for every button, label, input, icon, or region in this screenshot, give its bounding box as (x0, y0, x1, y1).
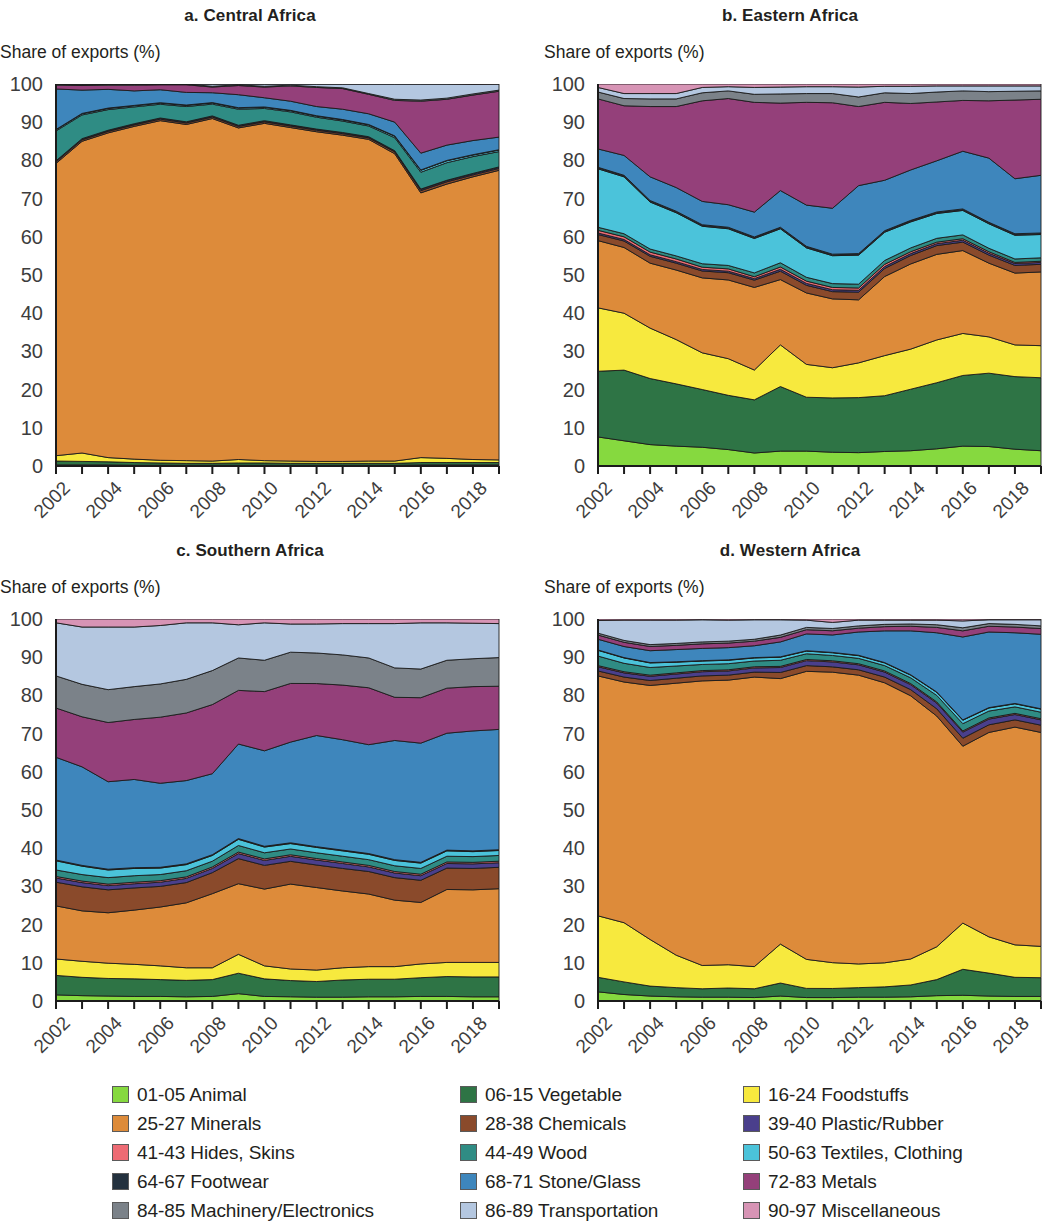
legend-item: 44-49 Wood (460, 1142, 743, 1164)
y-axis-title-c: Share of exports (%) (0, 577, 160, 598)
y-tick-label: 0 (0, 456, 43, 476)
x-tick-label: 2002 (565, 478, 615, 528)
y-axis-title-d: Share of exports (%) (544, 577, 704, 598)
legend-label: 64-67 Footwear (137, 1171, 269, 1193)
legend-item: 06-15 Vegetable (460, 1084, 743, 1106)
legend-swatch-icon (112, 1144, 129, 1161)
legend-label: 90-97 Miscellaneous (768, 1200, 940, 1222)
panel-title-d: d. Western Africa (540, 541, 1040, 561)
y-tick-label: 80 (537, 150, 585, 170)
legend-label: 44-49 Wood (485, 1142, 587, 1164)
y-tick-label: 70 (537, 724, 585, 744)
legend-swatch-icon (743, 1202, 760, 1219)
y-tick-label: 90 (537, 112, 585, 132)
y-tick-label: 40 (0, 838, 43, 858)
plot-area-southern-africa: 1009080706050403020100200220042006200820… (55, 619, 500, 1031)
legend-swatch-icon (743, 1115, 760, 1132)
legend-item: 68-71 Stone/Glass (460, 1171, 743, 1193)
y-tick-label: 30 (0, 341, 43, 361)
y-tick-label: 10 (0, 953, 43, 973)
stacked-area-svg (597, 619, 1042, 1031)
x-tick-label: 2002 (565, 1013, 615, 1063)
plot-area-western-africa: 1009080706050403020100200220042006200820… (597, 619, 1042, 1031)
y-tick-label: 50 (0, 265, 43, 285)
legend-label: 01-05 Animal (137, 1084, 247, 1106)
legend-item: 72-83 Metals (743, 1171, 1042, 1193)
y-tick-label: 90 (537, 647, 585, 667)
panel-southern-africa: c. Southern Africa Share of exports (%) … (0, 541, 530, 1061)
y-tick-label: 10 (0, 418, 43, 438)
legend-item: 01-05 Animal (112, 1084, 460, 1106)
legend-swatch-icon (743, 1086, 760, 1103)
y-tick-label: 50 (537, 265, 585, 285)
legend-swatch-icon (460, 1173, 477, 1190)
y-tick-label: 30 (537, 341, 585, 361)
panel-title-c: c. Southern Africa (0, 541, 530, 561)
legend-swatch-icon (460, 1115, 477, 1132)
y-tick-label: 50 (0, 800, 43, 820)
legend-label: 72-83 Metals (768, 1171, 877, 1193)
y-tick-label: 80 (0, 685, 43, 705)
legend-label: 68-71 Stone/Glass (485, 1171, 641, 1193)
legend-label: 84-85 Machinery/Electronics (137, 1200, 374, 1222)
legend-swatch-icon (112, 1202, 129, 1219)
panel-title-b: b. Eastern Africa (540, 6, 1040, 26)
y-tick-label: 0 (537, 991, 585, 1011)
legend-label: 16-24 Foodstuffs (768, 1084, 909, 1106)
y-tick-label: 60 (537, 762, 585, 782)
legend-label: 06-15 Vegetable (485, 1084, 622, 1106)
y-tick-label: 50 (537, 800, 585, 820)
legend-swatch-icon (743, 1144, 760, 1161)
legend-swatch-icon (112, 1086, 129, 1103)
legend-swatch-icon (112, 1115, 129, 1132)
y-tick-label: 60 (0, 762, 43, 782)
panel-western-africa: d. Western Africa Share of exports (%) 1… (540, 541, 1059, 1061)
y-tick-label: 40 (0, 303, 43, 323)
legend-swatch-icon (460, 1086, 477, 1103)
y-tick-label: 20 (0, 380, 43, 400)
legend-swatch-icon (460, 1202, 477, 1219)
legend-item: 84-85 Machinery/Electronics (112, 1200, 460, 1222)
y-axis-title-b: Share of exports (%) (544, 42, 704, 63)
y-tick-label: 70 (0, 189, 43, 209)
legend-label: 25-27 Minerals (137, 1113, 261, 1135)
y-tick-label: 20 (0, 915, 43, 935)
plot-area-eastern-africa: 1009080706050403020100200220042006200820… (597, 84, 1042, 496)
legend-label: 28-38 Chemicals (485, 1113, 626, 1135)
y-tick-label: 40 (537, 838, 585, 858)
y-tick-label: 10 (537, 953, 585, 973)
panel-eastern-africa: b. Eastern Africa Share of exports (%) 1… (540, 6, 1059, 526)
y-axis-title-a: Share of exports (%) (0, 42, 160, 63)
stacked-area-svg (597, 84, 1042, 496)
y-tick-label: 100 (537, 74, 585, 94)
y-tick-label: 70 (537, 189, 585, 209)
legend-item: 25-27 Minerals (112, 1113, 460, 1135)
y-tick-label: 0 (537, 456, 585, 476)
y-tick-label: 40 (537, 303, 585, 323)
stacked-area-svg (55, 84, 500, 496)
x-tick-label: 2002 (23, 478, 73, 528)
y-tick-label: 100 (537, 609, 585, 629)
legend-item: 50-63 Textiles, Clothing (743, 1142, 1042, 1164)
legend-swatch-icon (112, 1173, 129, 1190)
legend-item: 39-40 Plastic/Rubber (743, 1113, 1042, 1135)
y-tick-label: 100 (0, 609, 43, 629)
panel-central-africa: a. Central Africa Share of exports (%) 1… (0, 6, 530, 526)
y-tick-label: 60 (0, 227, 43, 247)
x-tick-label: 2002 (23, 1013, 73, 1063)
y-tick-label: 0 (0, 991, 43, 1011)
legend-item: 16-24 Foodstuffs (743, 1084, 1042, 1106)
y-tick-label: 60 (537, 227, 585, 247)
legend-item: 64-67 Footwear (112, 1171, 460, 1193)
legend-label: 39-40 Plastic/Rubber (768, 1113, 943, 1135)
y-tick-label: 90 (0, 112, 43, 132)
legend-item: 28-38 Chemicals (460, 1113, 743, 1135)
panel-title-a: a. Central Africa (0, 6, 530, 26)
y-tick-label: 80 (537, 685, 585, 705)
y-tick-label: 70 (0, 724, 43, 744)
y-tick-label: 80 (0, 150, 43, 170)
y-tick-label: 90 (0, 647, 43, 667)
legend-swatch-icon (743, 1173, 760, 1190)
legend-label: 50-63 Textiles, Clothing (768, 1142, 963, 1164)
y-tick-label: 20 (537, 915, 585, 935)
